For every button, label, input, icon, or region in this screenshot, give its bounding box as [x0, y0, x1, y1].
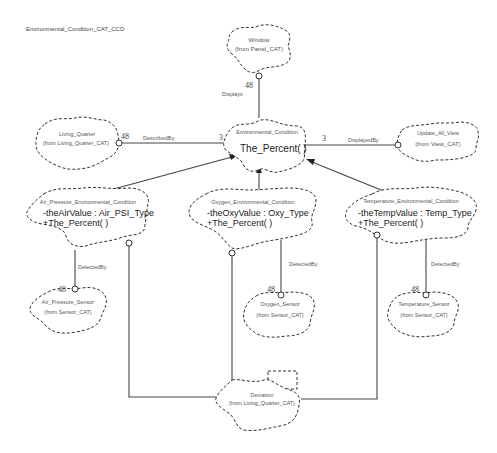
class-name: Living_Quarter [59, 131, 95, 137]
described-by-mult-left: 48 [121, 132, 129, 141]
class-name: Update_All_View [417, 130, 459, 136]
temperature-inheritance-line[interactable] [312, 162, 386, 192]
class-package: (from View_CAT) [415, 141, 460, 147]
class-attribute: -theOxyValue : Oxy_Type [207, 208, 309, 218]
class-temperature-sensor[interactable]: Temperature_Sensor (from Sensor_CAT) [388, 292, 459, 337]
class-living-quarter[interactable]: Living_Quarter (from Living_Quarter_CAT) [36, 117, 119, 169]
aggregation-circle-icon [256, 73, 262, 79]
air-deviation-line[interactable] [129, 243, 218, 397]
oxy-detected-by-label: DetectedBy [289, 261, 318, 267]
class-package: (from Living_Quarter_CAT) [43, 140, 109, 146]
temp-deviation-line[interactable] [301, 235, 377, 399]
class-name: Temperature_Environmental_Condition [363, 198, 458, 204]
class-operation: +The_Percent( ) [207, 218, 272, 228]
displays-multiplicity: 48 [245, 81, 253, 90]
oxy-sensor-multiplicity: 48 [267, 285, 275, 294]
aggregation-circle-icon [374, 232, 380, 238]
class-operation: +The_Percent( ) [43, 218, 108, 228]
aggregation-circle-icon [229, 250, 235, 256]
described-by-mult-right: 3 [219, 133, 223, 142]
air-pressure-inheritance-line[interactable] [110, 157, 232, 190]
aggregation-circle-icon [278, 292, 284, 298]
diagram-title: Environmental_Condition_CAT_CCD [26, 26, 125, 32]
class-package: (from Sensor_CAT) [256, 312, 303, 318]
class-name: Temperature_Sensor [398, 301, 450, 307]
displayed-by-multiplicity: 3 [322, 134, 326, 143]
class-name: Deviation [251, 392, 274, 398]
class-update-all-view[interactable]: Update_All_View (from View_CAT) [397, 122, 478, 161]
described-by-label: DescribedBy [143, 135, 174, 141]
class-oxygen-sensor[interactable]: Oxygen_Sensor (from Sensor_CAT) [243, 292, 314, 337]
class-operation: The_Percent( ) [240, 143, 307, 154]
class-deviation[interactable]: Deviation (from Living_Quarter_CAT) [216, 371, 300, 431]
class-package: (from Sensor_CAT) [44, 309, 91, 315]
class-operation: +The_Percent( ) [358, 218, 423, 228]
aggregation-circle-icon [395, 142, 401, 148]
displayed-by-label: DisplayedBy [348, 137, 379, 143]
class-window[interactable]: Window (from Panel_CAT) [227, 25, 290, 73]
temp-sensor-multiplicity: 48 [411, 285, 419, 294]
class-name: Oxygen_Sensor [260, 301, 300, 307]
class-name: Window [248, 37, 270, 43]
aggregation-circle-icon [423, 292, 429, 298]
class-diagram-canvas: Environmental_Condition_CAT_CCD Window (… [0, 0, 497, 453]
class-name: Oxygen_Environmental_Condition [211, 199, 294, 205]
displays-label: Displays [222, 91, 243, 97]
air-sensor-multiplicity: 48 [58, 285, 66, 294]
class-name: Air_Pressure_Environmental_Condition [40, 199, 136, 205]
class-environmental-condition[interactable]: Environmental_Condition The_Percent( ) [224, 120, 307, 173]
inheritance-arrowhead-icon [306, 159, 315, 165]
class-package: (from Living_Quarter_CAT) [229, 400, 295, 406]
class-oxygen-environmental-condition[interactable]: Oxygen_Environmental_Condition -theOxyVa… [189, 188, 316, 249]
air-detected-by-label: DetectedBy [78, 264, 107, 270]
class-name: Air_Pressure_Sensor [42, 299, 94, 305]
aggregation-circle-icon [72, 286, 78, 292]
class-attribute: -theTempValue : Temp_Type [358, 208, 472, 218]
class-package: (from Sensor_CAT) [400, 312, 447, 318]
aggregation-circle-icon [126, 240, 132, 246]
class-name: Environmental_Condition [236, 129, 297, 135]
class-package: (from Panel_CAT) [235, 46, 283, 52]
class-air-pressure-environmental-condition[interactable]: Air_Pressure_Environmental_Condition -th… [27, 187, 154, 246]
class-temperature-environmental-condition[interactable]: Temperature_Environmental_Condition -the… [345, 187, 476, 243]
temp-detected-by-label: DetectedBy [431, 261, 460, 267]
class-attribute: -theAirValue : Air_PSI_Type [43, 208, 154, 218]
class-air-pressure-sensor[interactable]: Air_Pressure_Sensor (from Sensor_CAT) [30, 287, 106, 333]
